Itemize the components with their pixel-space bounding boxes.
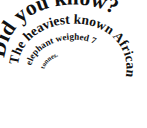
- spiral-segment-4-text: tonnes.: [39, 50, 59, 69]
- spiral-segment-4: tonnes.: [39, 50, 59, 69]
- spiral-canvas: Did you know? The heaviest known African…: [0, 0, 147, 128]
- spiral-text-graphic: Did you know? The heaviest known African…: [0, 0, 147, 128]
